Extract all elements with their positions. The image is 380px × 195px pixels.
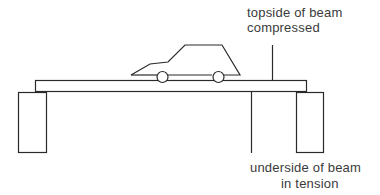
right-support: [297, 93, 324, 153]
beam: [36, 81, 307, 92]
underside-label-line2: in tension: [281, 176, 339, 191]
beam-diagram: topside of beam compressed underside of …: [0, 0, 380, 195]
car-body: [131, 45, 240, 75]
left-support: [19, 93, 47, 153]
topside-label-line1: topside of beam: [247, 5, 343, 20]
front-wheel: [157, 72, 168, 83]
rear-wheel: [213, 72, 224, 83]
underside-label-line1: underside of beam: [250, 160, 361, 175]
topside-label-line2: compressed: [247, 20, 320, 35]
car: [131, 45, 240, 83]
